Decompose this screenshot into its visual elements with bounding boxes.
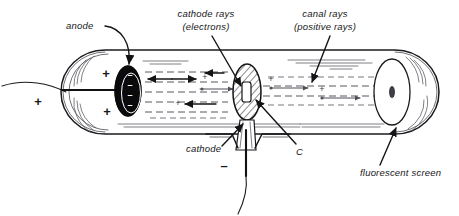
- anode-minus-2: –: [127, 80, 132, 90]
- anode-label-text: anode: [66, 20, 93, 31]
- anode-minus-3: –: [127, 90, 132, 100]
- label-fluorescent-screen: fluorescent screen: [360, 128, 441, 178]
- anode-plus-upper: +: [102, 66, 110, 81]
- ion-plus-right-b: +: [319, 84, 324, 94]
- crookes-tube-diagram: + – – – – + + + +: [0, 0, 459, 216]
- ion-plus-right-a: +: [268, 74, 273, 84]
- left-chamber-ion: + +: [175, 72, 233, 108]
- cathode-label-text: cathode: [186, 143, 221, 154]
- cathode-channel-slit: [242, 82, 251, 102]
- anode-plus-lower: +: [103, 104, 111, 119]
- canal-rays-label-line2: (positive rays): [294, 21, 356, 32]
- fluorescent-screen-label-text: fluorescent screen: [360, 167, 441, 178]
- label-cathode-rays: cathode rays (electrons): [178, 8, 241, 86]
- canal-ray-beams: [263, 77, 392, 105]
- faint-plus-left: +: [202, 72, 207, 82]
- left-dome-hatching: [63, 52, 108, 132]
- screen-spot: [389, 86, 395, 98]
- cathode-rays-label-line1: cathode rays: [178, 8, 235, 19]
- faint-plus-mid: +: [175, 98, 180, 108]
- cathode-rays-label-line2: (electrons): [182, 21, 229, 32]
- external-plus-symbol: +: [34, 94, 42, 109]
- diagram-canvas: + – – – – + + + +: [0, 0, 459, 216]
- channel-label-text: C: [296, 146, 303, 157]
- label-channel-c: C: [256, 100, 303, 157]
- fluorescent-screen-dome: [374, 59, 410, 125]
- label-canal-rays: canal rays (positive rays): [294, 8, 356, 82]
- canal-rays-label-line1: canal rays: [302, 8, 347, 19]
- cathode-disc: [233, 64, 261, 120]
- anode-disc: – – – –: [115, 66, 141, 116]
- anode-minus-4: –: [127, 100, 132, 110]
- cathode-stem-wire: [206, 120, 290, 214]
- anode-minus-1: –: [127, 70, 132, 80]
- cathode-minus-symbol: –: [220, 158, 227, 173]
- label-anode: anode: [66, 20, 129, 64]
